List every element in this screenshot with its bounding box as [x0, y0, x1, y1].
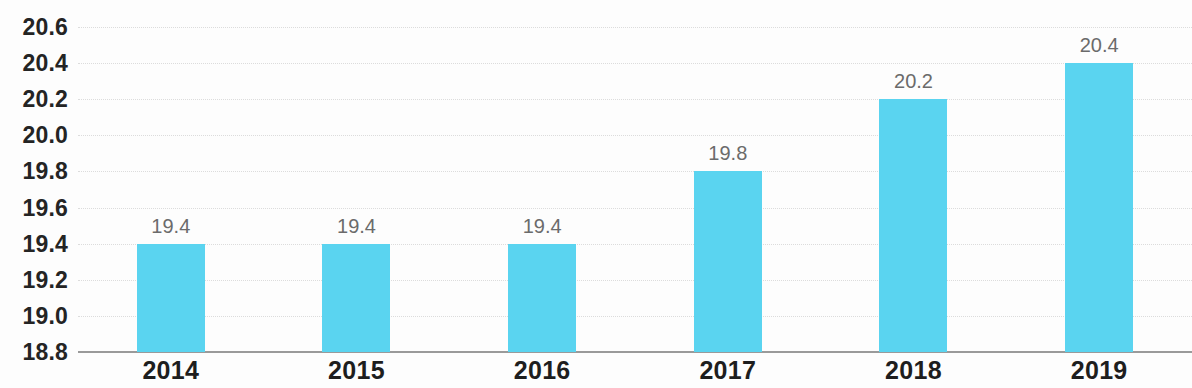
x-axis-tick-label: 2018: [885, 358, 942, 383]
x-axis-tick-label: 2017: [699, 358, 756, 383]
y-axis-tick-label: 20.2: [22, 88, 68, 111]
y-axis-tick-label: 20.4: [22, 52, 68, 75]
bar-group: 19.4: [78, 0, 264, 388]
y-axis-tick-label: 19.4: [22, 232, 68, 255]
bar-value-label: 19.8: [708, 143, 747, 163]
y-axis-tick-label: 18.8: [22, 341, 68, 364]
bar[interactable]: [137, 244, 205, 352]
y-axis-tick-label: 19.0: [22, 304, 68, 327]
bar-group: 19.4: [264, 0, 450, 388]
bar[interactable]: [322, 244, 390, 352]
y-axis-tick-label: 20.6: [22, 16, 68, 39]
bar-value-label: 19.4: [523, 216, 562, 236]
bar[interactable]: [1065, 63, 1133, 352]
bar-chart: 20.620.420.220.019.819.619.419.219.018.8…: [0, 0, 1192, 388]
bar[interactable]: [879, 99, 947, 352]
plot-area: 19.419.419.419.820.220.4: [78, 0, 1192, 388]
x-axis-tick-label: 2016: [514, 358, 571, 383]
bar-group: 19.8: [635, 0, 821, 388]
y-axis-tick-label: 19.6: [22, 196, 68, 219]
x-axis: 201420152016201720182019: [78, 358, 1192, 388]
bar[interactable]: [508, 244, 576, 352]
bars-layer: 19.419.419.419.820.220.4: [78, 0, 1192, 388]
bar-value-label: 20.4: [1080, 35, 1119, 55]
x-axis-tick-label: 2019: [1071, 358, 1128, 383]
x-axis-tick-label: 2014: [142, 358, 199, 383]
bar-group: 19.4: [449, 0, 635, 388]
bar-value-label: 20.2: [894, 71, 933, 91]
y-axis: 20.620.420.220.019.819.619.419.219.018.8: [0, 0, 74, 388]
y-axis-tick-label: 19.8: [22, 160, 68, 183]
bar-value-label: 19.4: [337, 216, 376, 236]
y-axis-tick-label: 20.0: [22, 124, 68, 147]
bar-group: 20.4: [1006, 0, 1192, 388]
bar-value-label: 19.4: [151, 216, 190, 236]
bar-group: 20.2: [821, 0, 1007, 388]
bar[interactable]: [694, 171, 762, 352]
y-axis-tick-label: 19.2: [22, 268, 68, 291]
x-axis-tick-label: 2015: [328, 358, 385, 383]
